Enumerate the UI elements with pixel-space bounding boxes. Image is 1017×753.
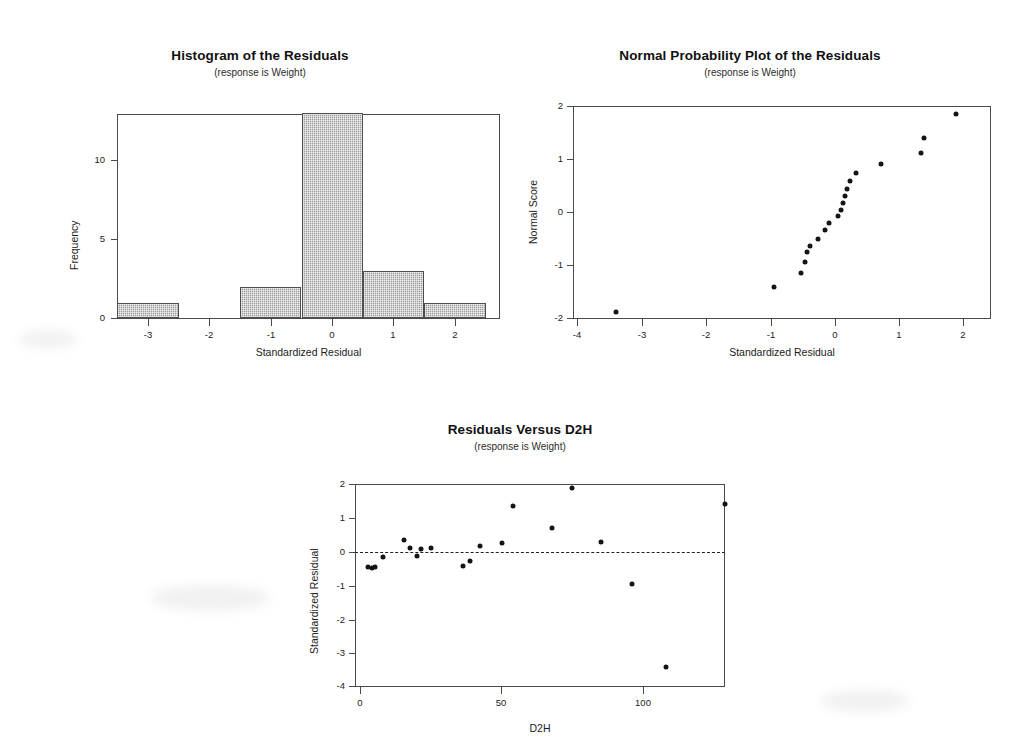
residuals-d2h-xaxis-title: D2H (355, 722, 725, 734)
histogram-plot-area: 0 5 10 -3 -2 -1 0 1 2 Standardized Resid… (10, 48, 510, 378)
histogram-xaxis-title: Standardized Residual (117, 346, 500, 358)
scatter-point (823, 228, 828, 233)
scatter-point (836, 213, 841, 218)
scatter-point (802, 259, 807, 264)
normal-plot-area: 2 1 0 -1 -2 -4 -3 -2 -1 0 1 2 Standardiz… (495, 48, 1005, 378)
scatter-point (401, 538, 406, 543)
scatter-point (613, 309, 618, 314)
scatter-point (804, 250, 809, 255)
scatter-point (550, 525, 555, 530)
residuals-d2h-plot-area: 2 1 0 -1 -2 -3 -4 0 50 100 D2H Standardi… (260, 422, 780, 753)
histogram-bars (10, 48, 510, 378)
scatter-point (629, 581, 634, 586)
scatter-point (380, 554, 385, 559)
scatter-point (461, 563, 466, 568)
paper-smudge (820, 690, 910, 712)
scatter-point (807, 243, 812, 248)
scatter-point (499, 541, 504, 546)
scatter-point (922, 136, 927, 141)
scatter-point (372, 564, 377, 569)
scatter-point (723, 502, 728, 507)
chart-histogram-residuals: Histogram of the Residuals (response is … (10, 48, 510, 378)
scatter-point (468, 558, 473, 563)
normal-plot-xaxis-title: Standardized Residual (573, 346, 991, 358)
scatter-point (838, 207, 843, 212)
histogram-bar (240, 287, 301, 319)
residuals-d2h-yaxis-title: Standardized Residual (308, 548, 320, 654)
histogram-yaxis-title: Frequency (68, 220, 80, 270)
scatter-point (414, 553, 419, 558)
histogram-bar (424, 303, 485, 319)
scatter-point (853, 170, 858, 175)
histogram-bar (117, 303, 178, 319)
scatter-point (428, 545, 433, 550)
scatter-point (663, 664, 668, 669)
scatter-point (510, 504, 515, 509)
scatter-point (840, 200, 845, 205)
scatter-point (919, 151, 924, 156)
scatter-point (798, 270, 803, 275)
scatter-point (879, 162, 884, 167)
scatter-point (771, 284, 776, 289)
scatter-point (953, 111, 958, 116)
scatter-point (598, 540, 603, 545)
chart-normal-probability-plot: Normal Probability Plot of the Residuals… (495, 48, 1005, 378)
scatter-point (478, 544, 483, 549)
scatter-point (418, 547, 423, 552)
scatter-point (815, 236, 820, 241)
scatter-point (407, 546, 412, 551)
residuals-d2h-points (260, 422, 780, 753)
normal-plot-yaxis-title: Normal Score (527, 180, 539, 244)
chart-residuals-versus-d2h: Residuals Versus D2H (response is Weight… (260, 422, 780, 753)
scatter-point (570, 486, 575, 491)
histogram-bar (363, 271, 424, 318)
scatter-point (842, 194, 847, 199)
histogram-bar (302, 113, 363, 318)
scatter-point (827, 220, 832, 225)
paper-smudge (150, 585, 270, 611)
scatter-point (845, 186, 850, 191)
normal-plot-points (495, 48, 1005, 378)
scatter-point (848, 179, 853, 184)
